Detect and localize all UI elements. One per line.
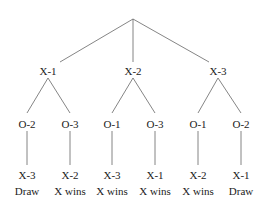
outcome-label: X wins	[54, 185, 85, 197]
leaf-move: X-1	[146, 169, 163, 181]
node-o: O-2	[232, 118, 249, 130]
edge-root-x3	[133, 19, 209, 62]
leaf-move: X-3	[18, 169, 35, 181]
leaf-move: X-2	[189, 169, 206, 181]
node-o: O-1	[189, 118, 206, 130]
leaf-move: X-3	[103, 169, 120, 181]
edge-root-x1	[60, 19, 133, 62]
node-o: O-3	[61, 118, 78, 130]
leaf-move: X-2	[61, 169, 78, 181]
outcome-label: X wins	[182, 185, 213, 197]
node-x3: X-3	[209, 65, 226, 77]
node-x1: X-1	[39, 65, 56, 77]
node-o: O-1	[103, 118, 120, 130]
outcome-label: X wins	[96, 185, 127, 197]
leaf-move: X-1	[232, 169, 249, 181]
tree-edges	[0, 0, 265, 203]
node-o: O-2	[18, 118, 35, 130]
outcome-label: X wins	[139, 185, 170, 197]
outcome-label: Draw	[229, 185, 253, 197]
node-o: O-3	[146, 118, 163, 130]
node-x2: X-2	[124, 65, 141, 77]
outcome-label: Draw	[15, 185, 39, 197]
